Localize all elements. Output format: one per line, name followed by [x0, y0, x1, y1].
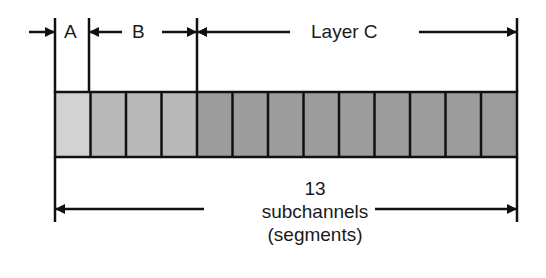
segment-bar [55, 92, 517, 157]
segment-layer-a [55, 92, 90, 157]
layer-b-label: B [132, 22, 145, 41]
total-line2: (segments) [200, 223, 430, 246]
layer-a-label: A [64, 22, 77, 41]
layer-c-label: Layer C [311, 22, 378, 41]
total-line1: subchannels [200, 200, 430, 223]
total-segments-label: 13 subchannels (segments) [200, 177, 430, 246]
total-count: 13 [200, 177, 430, 200]
segment-layer-b [90, 92, 197, 157]
top-extension-lines [55, 18, 517, 92]
segment-layer-c [197, 92, 517, 157]
